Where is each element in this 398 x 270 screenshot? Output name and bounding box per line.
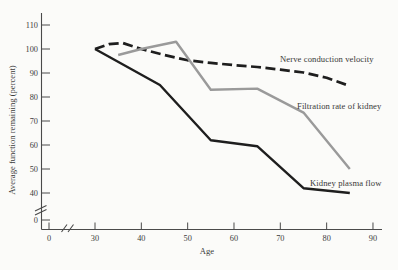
axes: 0304050607080900405060708090100110 (26, 13, 382, 243)
y-tick-label: 0 (34, 216, 38, 225)
y-tick-label: 90 (30, 69, 38, 78)
y-axis-break-mark (35, 206, 47, 216)
data-series (95, 42, 350, 193)
y-tick-label: 60 (30, 141, 38, 150)
nerve-conduction-velocity-label: Nerve conduction velocity (280, 54, 374, 64)
x-tick-label: 40 (137, 234, 145, 243)
y-tick-label: 80 (30, 93, 38, 102)
y-tick-label: 70 (30, 117, 38, 126)
x-axis-break-mark (62, 225, 74, 233)
y-tick-label: 110 (26, 21, 38, 30)
x-tick-label: 60 (230, 234, 238, 243)
y-tick-label: 40 (30, 189, 38, 198)
y-axis-title: Average function remaining (percent) (7, 65, 17, 195)
y-tick-label: 100 (26, 45, 38, 54)
nerve-conduction-velocity-line (95, 43, 350, 86)
line-chart-canvas: 0304050607080900405060708090100110 Nerve… (0, 0, 398, 270)
y-tick-label: 50 (30, 165, 38, 174)
x-tick-label: 0 (47, 234, 51, 243)
x-tick-label: 80 (323, 234, 331, 243)
x-tick-label: 50 (184, 234, 192, 243)
filtration-rate-of-kidney-label: Filtration rate of kidney (297, 101, 382, 111)
kidney-plasma-flow-label: Kidney plasma flow (310, 178, 382, 188)
x-tick-label: 90 (369, 234, 377, 243)
x-axis-title: Age (200, 246, 215, 256)
x-tick-label: 70 (276, 234, 284, 243)
aging-organ-function-figure: 0304050607080900405060708090100110 Nerve… (0, 0, 398, 270)
x-tick-label: 30 (91, 234, 99, 243)
series-labels: Nerve conduction velocityFiltration rate… (280, 54, 382, 188)
